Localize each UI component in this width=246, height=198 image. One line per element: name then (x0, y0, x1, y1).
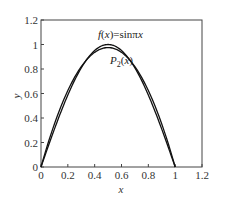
curves (41, 45, 175, 168)
x-tick-label: 0.6 (115, 169, 129, 181)
x-axis-label: x (118, 183, 124, 195)
y-tick-label: 1 (33, 39, 39, 51)
curve-p2 (41, 48, 175, 167)
x-tick-label: 0.2 (61, 169, 75, 181)
annotation-f: f(x)=sinπx (98, 28, 143, 41)
y-tick-label: 0.2 (24, 137, 38, 149)
x-tick-label: 1 (172, 169, 178, 181)
plot-area (41, 20, 202, 167)
y-axis-label: y (10, 93, 22, 99)
y-tick-label: 0.6 (24, 88, 38, 100)
chart: 00.20.40.60.811.2 00.20.40.60.811.2 y x … (0, 0, 246, 198)
x-tick-label: 1.2 (195, 169, 209, 181)
y-tick-label: 0.8 (24, 63, 38, 75)
x-tick-label: 0.4 (88, 169, 102, 181)
x-tick-label: 0 (38, 169, 44, 181)
y-tick-label: 0.4 (24, 112, 38, 124)
annotation-p2: P2(x) (109, 54, 133, 69)
y-tick-label: 1.2 (24, 14, 38, 26)
x-tick-label: 0.8 (141, 169, 155, 181)
